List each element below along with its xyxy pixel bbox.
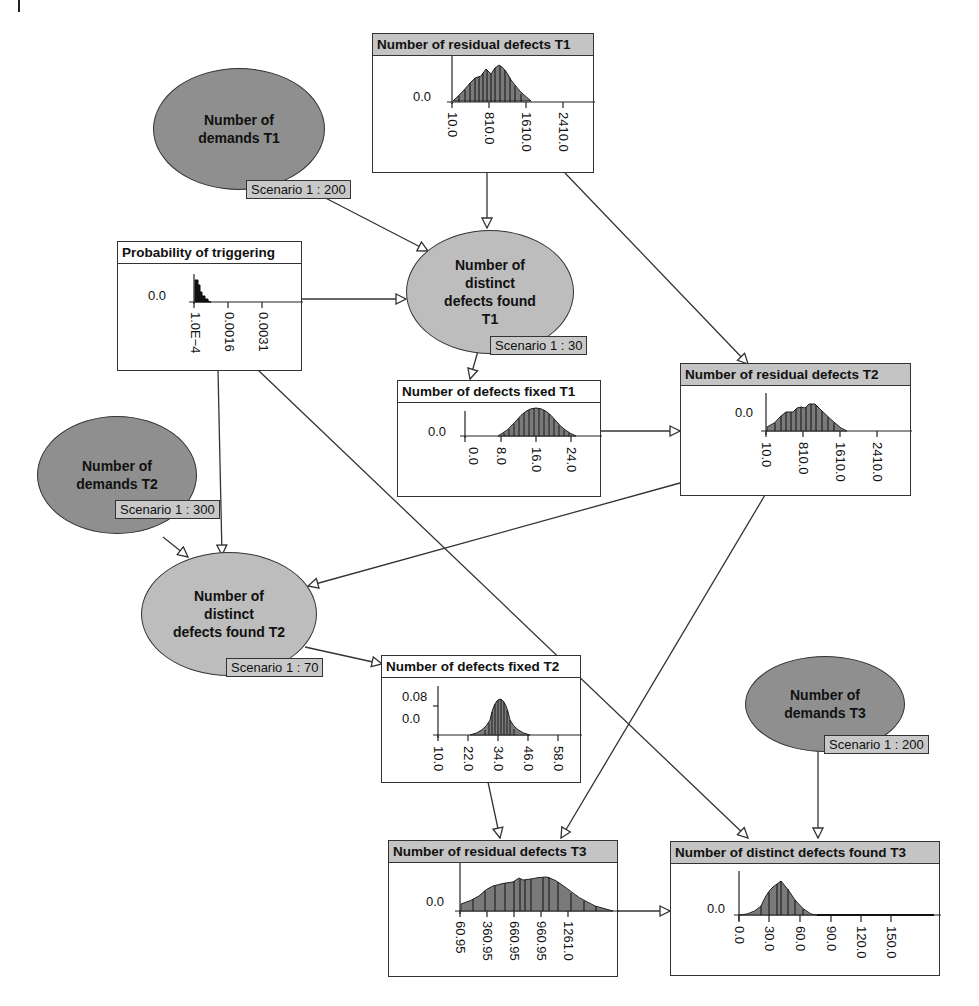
x-tick-label: 30.0	[762, 926, 777, 951]
x-tick-label: 10.0	[759, 442, 774, 467]
node-label-line1: Number of	[62, 457, 172, 475]
histogram-chart	[389, 841, 619, 978]
x-tick-label: 34.0	[491, 746, 506, 771]
scenario-badge-demands-t3: Scenario 1 : 200	[824, 735, 929, 754]
edge-prob-foundT2	[218, 370, 222, 555]
edge-foundT1-fixedT1	[470, 351, 478, 379]
scenario-badge-found-t1: Scenario 1 : 30	[490, 336, 587, 355]
scenario-badge-demands-t2: Scenario 1 : 300	[115, 500, 220, 519]
node-label-line1: Number of	[184, 111, 294, 129]
x-tick-label: 8.0	[494, 447, 509, 465]
x-tick-label: 1.0E−4	[188, 312, 203, 354]
x-tick-label: 16.0	[529, 447, 544, 472]
node-residual-t3[interactable]: Number of residual defects T3 0.0 60.95 …	[388, 840, 618, 977]
x-tick-label: 660.95	[507, 921, 522, 961]
x-tick-label: 22.0	[461, 746, 476, 771]
x-tick-label: 60.95	[453, 921, 468, 954]
histogram-chart	[373, 34, 595, 174]
x-tick-label: 0.0016	[222, 312, 237, 352]
x-tick-label: 10.0	[445, 112, 460, 137]
x-tick-label: 1610.0	[833, 442, 848, 482]
x-tick-label: 58.0	[551, 746, 566, 771]
node-label-line2: demands T2	[62, 475, 172, 493]
x-tick-label: 120.0	[854, 926, 869, 959]
node-label-line2: defects found T1	[421, 292, 559, 328]
node-demands-t1[interactable]: Number ofdemands T1	[153, 68, 325, 190]
bbn-diagram-canvas: Number ofdemands T1 Scenario 1 : 200 Num…	[0, 0, 979, 1006]
node-prob-triggering[interactable]: Probability of triggering 0.0 1.0E−4 0.0…	[117, 241, 302, 371]
node-label-line2: demands T1	[184, 129, 294, 147]
node-label-line2: defects found T2	[156, 623, 302, 641]
x-tick-label: 0.0	[466, 447, 481, 465]
page-margin-mark	[18, 0, 20, 12]
edge-residualT1-residualT2	[565, 173, 748, 364]
edge-residualT2-residualT3	[561, 495, 765, 838]
node-residual-t2[interactable]: Number of residual defects T2 0.0 10.0 8…	[680, 363, 911, 496]
x-tick-label: 1610.0	[519, 112, 534, 152]
histogram-chart	[398, 381, 602, 498]
edge-residualT2-foundT2	[308, 483, 680, 586]
x-tick-label: 360.95	[480, 921, 495, 961]
x-tick-label: 60.0	[793, 926, 808, 951]
x-tick-label: 810.0	[796, 442, 811, 475]
edge-demandsT2-foundT2	[163, 537, 188, 557]
x-tick-label: 10.0	[431, 746, 446, 771]
x-tick-label: 810.0	[482, 112, 497, 145]
x-tick-label: 1261.0	[561, 921, 576, 961]
x-tick-label: 0.0031	[256, 312, 271, 352]
histogram-chart	[118, 242, 303, 372]
node-label-line2: demands T3	[770, 704, 880, 722]
x-tick-label: 2410.0	[556, 112, 571, 152]
histogram-chart	[671, 842, 941, 977]
x-tick-label: 2410.0	[870, 442, 885, 482]
edge-demandsT1-foundT1	[310, 190, 428, 251]
node-fixed-t2[interactable]: Number of defects fixed T2 0.08 0.0 10.0…	[381, 655, 581, 783]
node-label-line1: Number of	[770, 686, 880, 704]
x-tick-label: 150.0	[884, 926, 899, 959]
node-label-line1: Number of distinct	[156, 587, 302, 623]
x-tick-label: 46.0	[521, 746, 536, 771]
x-tick-label: 24.0	[564, 447, 579, 472]
x-tick-label: 90.0	[824, 926, 839, 951]
x-tick-label: 960.95	[534, 921, 549, 961]
scenario-badge-demands-t1: Scenario 1 : 200	[246, 180, 351, 199]
edge-fixedT2-residualT3	[488, 782, 500, 838]
node-found-t3[interactable]: Number of distinct defects found T3 0.0 …	[670, 841, 940, 976]
scenario-badge-found-t2: Scenario 1 : 70	[226, 658, 323, 677]
node-label-line1: Number of distinct	[421, 256, 559, 292]
node-residual-t1[interactable]: Number of residual defects T1 0.0 10.0 8…	[372, 33, 594, 173]
x-tick-label: 0.0	[732, 926, 747, 944]
node-fixed-t1[interactable]: Number of defects fixed T1 0.0 0.0 8.0 1…	[397, 380, 601, 497]
